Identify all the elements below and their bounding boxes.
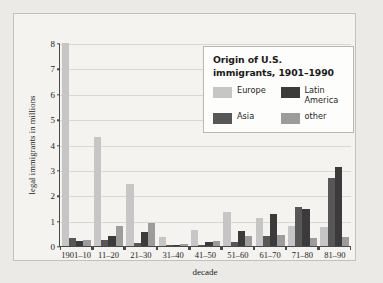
legend-items: EuropeLatin AmericaAsiaother — [213, 86, 344, 124]
bar — [320, 227, 327, 246]
chart-frame: legal immigrants in millions 012345678 1… — [13, 13, 356, 261]
bar — [134, 243, 141, 246]
x-axis-tick-mark — [286, 246, 287, 250]
bar — [342, 237, 349, 246]
bar — [69, 238, 76, 246]
x-axis-tick-label: 81–90 — [324, 250, 345, 260]
bar-group: 11–20 — [92, 44, 124, 246]
legend-title: Origin of U.S. immigrants, 1901–1990 — [213, 54, 344, 79]
x-axis-tick-mark — [350, 246, 351, 250]
y-axis-tick-label: 4 — [51, 141, 56, 151]
legend-item: Europe — [213, 86, 277, 105]
y-axis-tick-label: 2 — [51, 191, 56, 201]
x-axis-tick-mark — [319, 246, 320, 250]
x-axis-tick-label: 1901–10 — [61, 250, 91, 260]
legend-title-line-1: Origin of U.S. — [213, 54, 344, 67]
y-axis-tick-label: 7 — [51, 64, 56, 74]
legend-swatch — [213, 87, 232, 98]
bar — [148, 223, 155, 246]
bar — [116, 226, 123, 246]
bar — [310, 238, 317, 246]
bar-group: 31–40 — [157, 44, 189, 246]
legend-item: other — [281, 112, 345, 124]
y-axis-tick-label: 6 — [51, 90, 56, 100]
bar — [302, 209, 309, 246]
bar — [94, 137, 101, 246]
y-axis-title: legal immigrants in millions — [27, 96, 37, 195]
bar — [231, 242, 238, 246]
x-axis-tick-label: 51–60 — [227, 250, 248, 260]
x-axis-tick-label: 41–50 — [195, 250, 216, 260]
x-axis-tick-label: 21–30 — [130, 250, 151, 260]
y-axis-tick-label: 3 — [51, 166, 56, 176]
legend-swatch — [213, 113, 232, 124]
bar — [83, 240, 90, 246]
x-axis-title: decade — [193, 267, 218, 277]
legend-item: Latin America — [281, 86, 345, 105]
bar — [166, 245, 173, 246]
x-axis-tick-mark — [254, 246, 255, 250]
bar — [108, 236, 115, 246]
bar — [191, 230, 198, 246]
legend-label: other — [305, 112, 327, 122]
bar — [173, 245, 180, 246]
legend-item: Asia — [213, 112, 277, 124]
legend-swatch — [281, 87, 300, 98]
bar — [288, 226, 295, 246]
bar — [256, 218, 263, 246]
x-axis-tick-mark — [125, 246, 126, 250]
bar — [141, 232, 148, 246]
bar — [101, 240, 108, 246]
bar — [159, 237, 166, 246]
x-axis-tick-label: 61–70 — [260, 250, 281, 260]
bar — [277, 235, 284, 246]
bar-group: 21–30 — [125, 44, 157, 246]
x-axis-tick-label: 31–40 — [163, 250, 184, 260]
x-axis-tick-mark — [157, 246, 158, 250]
bar — [328, 178, 335, 246]
chart-legend: Origin of U.S. immigrants, 1901–1990 Eur… — [203, 46, 354, 133]
bar — [238, 231, 245, 246]
bar — [198, 245, 205, 246]
x-axis-tick-label: 11–20 — [98, 250, 119, 260]
bar — [245, 236, 252, 246]
bar — [335, 167, 342, 246]
bar — [295, 207, 302, 246]
bar-group: 1901–10 — [60, 44, 92, 246]
legend-label: Asia — [237, 112, 254, 122]
bar — [270, 214, 277, 246]
y-axis-tick-label: 0 — [51, 242, 56, 252]
y-axis-tick-label: 8 — [51, 39, 56, 49]
bar — [126, 184, 133, 246]
legend-title-line-2: immigrants, 1901–1990 — [213, 67, 344, 80]
bar — [62, 43, 69, 246]
x-axis-tick-mark — [189, 246, 190, 250]
bar — [76, 241, 83, 246]
bar — [180, 244, 187, 246]
bar — [223, 212, 230, 246]
bar — [213, 241, 220, 246]
x-axis-tick-mark — [92, 246, 93, 250]
y-axis-tick-label: 1 — [51, 217, 56, 227]
bar — [205, 242, 212, 246]
legend-swatch — [281, 113, 300, 124]
x-axis-tick-label: 71–80 — [292, 250, 313, 260]
y-axis-tick-label: 5 — [51, 115, 56, 125]
bar — [263, 236, 270, 246]
legend-label: Latin America — [305, 86, 339, 105]
x-axis-tick-mark — [222, 246, 223, 250]
legend-label: Europe — [237, 86, 266, 96]
